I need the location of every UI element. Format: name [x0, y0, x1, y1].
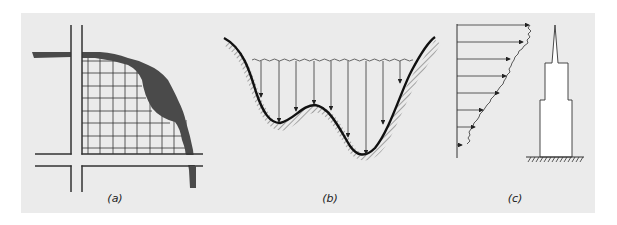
panel-b-diagram: [224, 37, 438, 157]
panel-c-diagram: [457, 24, 584, 162]
depth-arrows: [261, 61, 400, 154]
tall-building: [540, 25, 572, 157]
panel-b-label: (b): [322, 192, 338, 205]
river: [32, 52, 196, 188]
velocity-arrows: [457, 25, 529, 145]
velocity-profile: [467, 25, 531, 144]
water-surface: [252, 59, 413, 61]
figure-canvas: [0, 0, 617, 225]
ground-hatching: [528, 157, 583, 162]
panel-a-diagram: [32, 25, 203, 192]
panel-c-label: (c): [508, 192, 523, 205]
panel-a-label: (a): [107, 192, 122, 205]
